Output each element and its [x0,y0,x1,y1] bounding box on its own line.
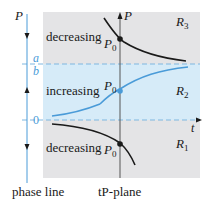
level-b-label: b [33,64,39,78]
level-a-label: a [33,51,39,65]
behavior-label-r2: increasing [46,83,100,98]
p-axis-label: P [123,8,132,23]
level-zero-label: 0 [33,113,39,127]
behavior-label-r3: decreasing [46,29,102,44]
behavior-label-r1: decreasing [46,140,102,155]
down-arrow-icon [25,33,30,39]
initial-point-r3 [117,36,123,42]
tp-plane-caption: tP-plane [98,184,142,199]
initial-point-r1 [117,141,123,147]
phase-line-axis-label: P [14,8,23,23]
down-arrow-icon [25,144,30,150]
diagram-canvas: P a b 0 decreasing increasing decreasing… [0,0,205,201]
initial-point-r2 [117,88,123,94]
phase-line-caption: phase line [12,184,65,199]
up-arrow-icon [25,87,30,93]
